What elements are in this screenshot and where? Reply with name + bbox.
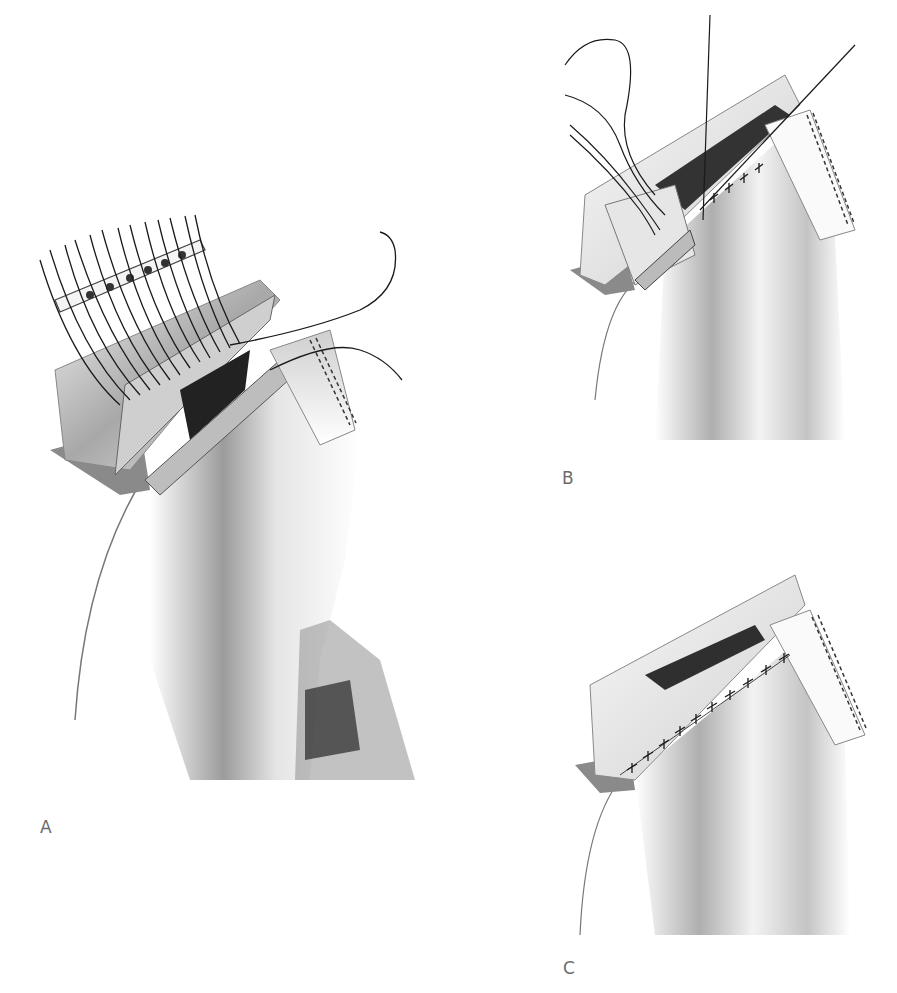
panel-a [30,240,430,800]
panel-c-illustration [575,565,865,940]
panel-label-a: A [40,817,52,837]
panel-c [575,565,865,940]
panel-b-illustration [565,15,865,445]
panel-b [565,15,865,445]
panel-label-c: C [563,958,575,978]
panel-a-illustration [30,240,430,800]
panel-label-b: B [562,468,574,488]
